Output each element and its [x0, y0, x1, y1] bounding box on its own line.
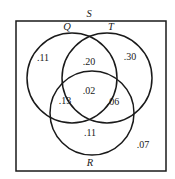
- set-r-label: R: [86, 157, 94, 168]
- region-outside-value: .07: [137, 139, 150, 150]
- set-t-label: T: [108, 21, 115, 32]
- venn-diagram: S Q T R .11 .20 .30 .02 .13 .06 .11 .07: [0, 0, 175, 179]
- set-r-circle: [50, 71, 134, 155]
- region-q-r-value: .13: [59, 95, 72, 106]
- set-q-circle: [27, 33, 117, 123]
- region-q-t-r-value: .02: [83, 85, 96, 96]
- region-t-r-value: .06: [107, 96, 120, 107]
- region-q-t-value: .20: [83, 56, 96, 67]
- set-q-label: Q: [63, 21, 71, 32]
- universe-label: S: [86, 8, 92, 19]
- set-t-circle: [62, 33, 152, 123]
- region-q-only-value: .11: [37, 52, 49, 63]
- region-r-only-value: .11: [84, 127, 96, 138]
- region-t-only-value: .30: [124, 51, 137, 62]
